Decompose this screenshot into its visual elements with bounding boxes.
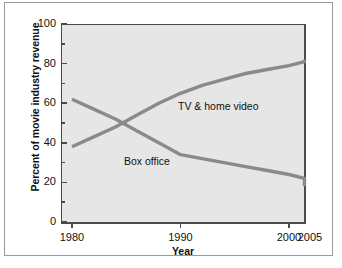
x-tick-1990 xyxy=(180,222,182,228)
y-tick-40 xyxy=(61,142,67,144)
x-tick-label-2005: 2005 xyxy=(286,231,334,243)
y-minor-tick-30 xyxy=(61,162,65,164)
x-axis-title: Year xyxy=(61,245,305,257)
y-tick-label-80: 80 xyxy=(26,58,56,69)
y-minor-tick-70 xyxy=(61,83,65,85)
y-tick-0 xyxy=(61,221,67,223)
plot-right-edge xyxy=(304,24,306,222)
x-axis-line xyxy=(61,222,306,224)
y-tick-label-100: 100 xyxy=(26,18,56,29)
series-label-tv-home-video: TV & home video xyxy=(178,100,259,112)
y-minor-tick-50 xyxy=(61,122,65,124)
y-tick-60 xyxy=(61,102,67,104)
x-tick-1980 xyxy=(71,222,73,228)
plot-area xyxy=(61,24,306,223)
y-tick-20 xyxy=(61,182,67,184)
x-tick-label-1990: 1990 xyxy=(157,231,205,243)
series-label-box-office: Box office xyxy=(124,155,170,167)
y-tick-label-40: 40 xyxy=(26,137,56,148)
y-tick-80 xyxy=(61,63,67,65)
x-tick-label-1980: 1980 xyxy=(48,231,96,243)
y-tick-label-60: 60 xyxy=(26,97,56,108)
y-tick-label-20: 20 xyxy=(26,176,56,187)
y-tick-100 xyxy=(61,23,67,25)
y-minor-tick-90 xyxy=(61,43,65,45)
y-minor-tick-10 xyxy=(61,201,65,203)
y-tick-label-0: 0 xyxy=(26,216,56,227)
chart-figure: Percent of movie industry revenue 020406… xyxy=(0,0,342,268)
x-tick-2000 xyxy=(288,222,290,228)
